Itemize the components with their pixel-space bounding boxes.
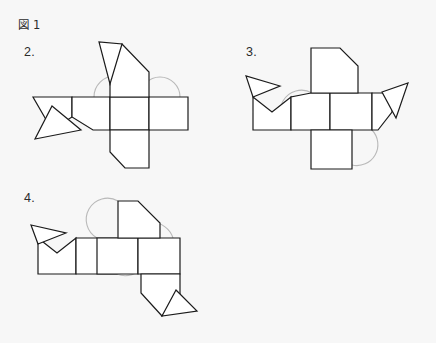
figure-2-group bbox=[33, 42, 188, 168]
figure-3-lower-square bbox=[311, 130, 352, 169]
caption-figure-1: 図 1 bbox=[18, 20, 41, 32]
figure-4-left-triangle bbox=[31, 225, 66, 244]
figure-3-upper-pentagon bbox=[311, 48, 358, 93]
figure-3-left-triangle bbox=[246, 76, 280, 97]
figure-4-upper-pentagon bbox=[118, 201, 160, 238]
figure-3-arc-lower bbox=[352, 130, 378, 166]
figure-2-band-cell-2 bbox=[72, 97, 110, 130]
figure-3-band-cell-3 bbox=[330, 93, 372, 130]
figure-2-label: 2. bbox=[24, 46, 35, 59]
figure-4-arc-left bbox=[86, 198, 118, 238]
figure-4-group bbox=[31, 198, 197, 316]
figure-canvas: 図 1 2. 3. 4. bbox=[0, 0, 436, 343]
figure-3-band-cell-2 bbox=[291, 93, 330, 130]
figure-4-label: 4. bbox=[24, 192, 35, 205]
figure-3-label: 3. bbox=[246, 46, 257, 59]
figure-3-band-cell-1 bbox=[253, 97, 291, 130]
figure-2-band-cell-4 bbox=[149, 97, 188, 130]
figure-2-band-cell-3 bbox=[110, 97, 149, 130]
figure-3-group bbox=[246, 48, 408, 169]
figure-4-band-cell-1 bbox=[38, 238, 76, 274]
net-diagrams-svg bbox=[0, 0, 436, 343]
figure-2-lower-pentagon bbox=[110, 130, 149, 168]
figure-4-band-cell-4 bbox=[138, 238, 180, 274]
figure-4-band-cell-3 bbox=[97, 238, 138, 274]
